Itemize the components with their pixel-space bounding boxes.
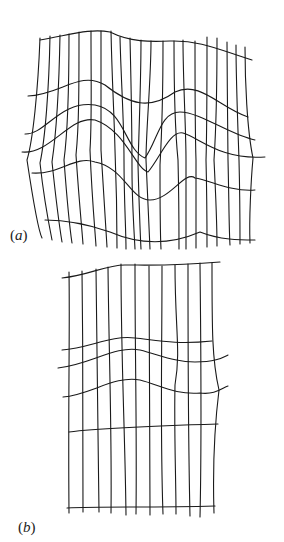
grid-line-vertical [52, 35, 62, 242]
grid-line-vertical [120, 37, 126, 249]
grid-line-vertical [175, 265, 178, 514]
grid-line-vertical [195, 41, 196, 248]
grid-line-horizontal [62, 262, 220, 278]
grid-line-horizontal [58, 349, 228, 368]
panel-a-deformed-grid [22, 31, 265, 249]
grid-line-vertical [138, 40, 141, 249]
grid-line-horizontal [67, 506, 215, 508]
grid-line-vertical [183, 40, 186, 249]
grid-line-vertical [188, 264, 190, 516]
grid-line-vertical [206, 37, 207, 247]
grid-line-horizontal [63, 379, 228, 397]
panel-b-deformed-grid [58, 262, 228, 517]
grid-line-vertical [111, 31, 117, 248]
grid-line-vertical [146, 41, 151, 249]
grid-line-vertical [90, 31, 96, 246]
grid-line-vertical [236, 45, 240, 244]
grid-line-vertical [161, 266, 163, 514]
grid-line-vertical [245, 47, 253, 243]
grid-line-vertical [212, 263, 219, 513]
grid-line-horizontal [69, 424, 218, 432]
grid-line-vertical [64, 34, 72, 243]
figure-canvas [0, 0, 284, 542]
grid-line-vertical [174, 41, 179, 249]
grid-line-vertical [108, 267, 111, 513]
panel-b-label-letter: b [23, 519, 31, 535]
grid-line-vertical [135, 264, 136, 514]
grid-line-vertical [82, 271, 83, 512]
grid-line-vertical [101, 31, 107, 247]
panel-b-label: (b) [18, 519, 36, 536]
grid-line-horizontal [40, 31, 252, 60]
grid-line-vertical [200, 263, 201, 517]
grid-line-vertical [227, 42, 230, 245]
grid-line-vertical [76, 32, 83, 244]
panel-a-label: (a) [10, 227, 28, 244]
grid-line-horizontal [62, 338, 212, 350]
grid-line-vertical [214, 38, 217, 246]
grid-line-vertical [40, 36, 52, 240]
grid-line-vertical [27, 38, 42, 238]
grid-line-vertical [96, 269, 99, 512]
panel-a-label-letter: a [15, 227, 23, 243]
grid-line-vertical [69, 272, 70, 513]
grid-line-vertical [160, 41, 163, 249]
grid-line-vertical [121, 264, 126, 515]
grid-line-horizontal [28, 80, 248, 117]
grid-line-vertical [149, 266, 150, 515]
